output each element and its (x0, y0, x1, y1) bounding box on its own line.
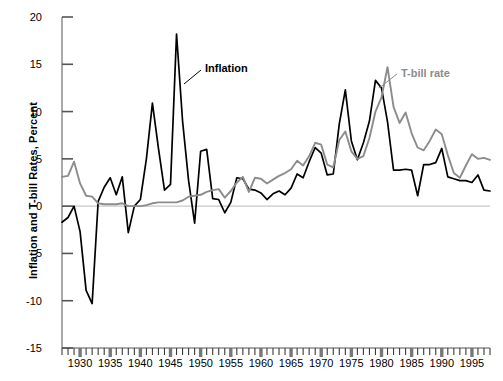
x-tick-label: 1940 (128, 357, 152, 369)
x-tick-label: 1995 (460, 357, 484, 369)
x-tick-label: 1980 (369, 357, 393, 369)
x-tick-label: 1930 (68, 357, 92, 369)
x-tick-label: 1955 (219, 357, 243, 369)
annotation-inflation: Inflation (205, 62, 248, 74)
x-tick-label: 1975 (339, 357, 363, 369)
x-tick-label: 1965 (279, 357, 303, 369)
annotation-tbill: T-bill rate (401, 67, 450, 79)
x-tick-label: 1935 (98, 357, 122, 369)
x-tick-label: 1990 (430, 357, 454, 369)
plot-area (0, 0, 503, 381)
x-axis-tick-labels: 1930193519401945195019551960196519701975… (0, 357, 503, 375)
x-tick-label: 1950 (188, 357, 212, 369)
y-axis (62, 17, 73, 348)
x-tick-label: 1945 (158, 357, 182, 369)
inflation-tbill-chart: Inflation and T-bill Rates, Percent 2015… (0, 0, 503, 381)
x-tick-label: 1970 (309, 357, 333, 369)
x-tick-label: 1985 (399, 357, 423, 369)
x-tick-label: 1960 (249, 357, 273, 369)
x-axis (62, 348, 490, 357)
